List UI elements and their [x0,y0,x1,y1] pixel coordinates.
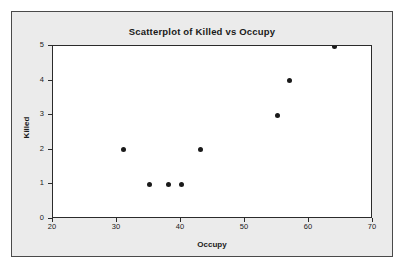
data-point [147,182,152,187]
y-tick-label: 0 [26,213,44,222]
data-point [179,182,184,187]
data-point [275,113,280,118]
chart-title: Scatterplot of Killed vs Occupy [11,26,393,37]
x-tick-label: 50 [229,222,259,231]
x-tick-label: 60 [293,222,323,231]
data-point [140,217,145,219]
x-axis-label: Occupy [52,240,372,249]
data-point [198,147,203,152]
y-tick-label: 3 [26,109,44,118]
data-point [287,78,292,83]
data-point [198,217,203,219]
y-tick-label: 5 [26,40,44,49]
x-tick-label: 40 [165,222,195,231]
x-tick-label: 30 [101,222,131,231]
data-point [332,45,337,49]
plot-area [52,45,372,218]
scatterplot-figure: Scatterplot of Killed vs Occupy Killed O… [0,0,404,268]
data-point [121,147,126,152]
y-tick-label: 2 [26,144,44,153]
data-point [166,182,171,187]
data-point [76,217,81,219]
y-tick-label: 1 [26,178,44,187]
y-tick-label: 4 [26,75,44,84]
data-point [134,217,139,219]
data-point [243,217,248,219]
x-tick-label: 20 [37,222,67,231]
x-tick-label: 70 [357,222,387,231]
y-tick-mark [48,218,52,219]
